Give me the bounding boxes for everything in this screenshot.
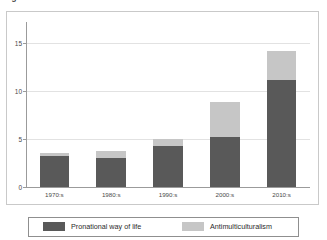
y-tick-mark-10 — [23, 91, 26, 92]
x-tick-label-2000s: 2000:s — [196, 191, 253, 199]
y-tick-label-wrap: 0 — [0, 184, 22, 191]
bar-segment[interactable] — [40, 153, 70, 156]
y-tick-label-wrap: 10 — [0, 88, 22, 95]
bar-segment[interactable] — [210, 137, 240, 187]
y-tick-label-10: 10 — [6, 88, 22, 95]
stacked-bar-chart: Figure 1. 051015 1970:s1980:s1990:s2000:… — [0, 0, 327, 240]
y-tick-mark-15 — [23, 43, 26, 44]
bar-segment[interactable] — [267, 80, 297, 187]
bar-segment[interactable] — [96, 158, 126, 187]
y-tick-mark-0 — [23, 187, 26, 188]
bar-group[interactable] — [267, 0, 297, 187]
bar-group[interactable] — [40, 0, 70, 187]
x-tick-label-1970s: 1970:s — [26, 191, 83, 199]
y-tick-label-wrap: 15 — [0, 40, 22, 47]
y-tick-label-5: 5 — [6, 136, 22, 143]
legend-label: Pronational way of life — [71, 222, 141, 231]
top-caption: Figure 1. — [4, 0, 39, 2]
bar-group[interactable] — [153, 0, 183, 187]
chart-legend: Pronational way of lifeAntimulticultural… — [28, 217, 299, 237]
legend-item[interactable]: Antimulticulturalism — [182, 222, 272, 231]
y-tick-label-wrap: 5 — [0, 136, 22, 143]
y-tick-label-0: 0 — [6, 184, 22, 191]
bar-segment[interactable] — [210, 102, 240, 137]
bar-segment[interactable] — [153, 146, 183, 187]
legend-item[interactable]: Pronational way of life — [43, 222, 141, 231]
x-tick-label-1990s: 1990:s — [140, 191, 197, 199]
bar-group[interactable] — [210, 0, 240, 187]
x-tick-label-1980s: 1980:s — [83, 191, 140, 199]
bar-segment[interactable] — [40, 156, 70, 187]
bar-segment[interactable] — [96, 151, 126, 158]
y-axis-line — [26, 22, 27, 188]
y-tick-label-15: 15 — [6, 40, 22, 47]
legend-label: Antimulticulturalism — [210, 222, 272, 231]
legend-swatch-icon — [43, 222, 65, 231]
legend-swatch-icon — [182, 222, 204, 231]
y-tick-mark-5 — [23, 139, 26, 140]
x-axis-line — [26, 187, 310, 188]
bar-group[interactable] — [96, 0, 126, 187]
bar-segment[interactable] — [153, 139, 183, 146]
bar-segment[interactable] — [267, 51, 297, 81]
x-tick-label-2010s: 2010:s — [253, 191, 310, 199]
